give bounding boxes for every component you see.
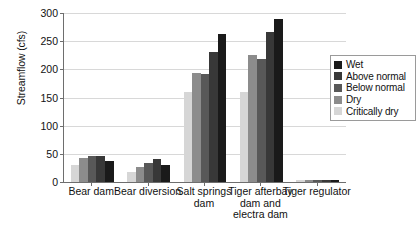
bar: [153, 159, 162, 182]
legend-item[interactable]: Dry: [334, 94, 411, 106]
y-tick-label: 300: [40, 7, 58, 19]
bar: [296, 180, 305, 182]
legend-swatch-icon: [334, 96, 342, 104]
bars-layer: [64, 13, 346, 182]
bar: [144, 163, 153, 182]
legend-swatch-icon: [334, 84, 342, 92]
legend-item[interactable]: Above normal: [334, 71, 411, 83]
y-tick-label: 50: [46, 148, 58, 160]
bar: [266, 32, 275, 182]
bar: [248, 55, 257, 182]
bar-group: [71, 13, 114, 182]
bar: [96, 156, 105, 182]
bar: [192, 73, 201, 182]
x-axis-label: Tiger regulator: [282, 186, 352, 198]
bar: [305, 180, 314, 182]
bar: [240, 92, 249, 182]
legend-swatch-icon: [334, 107, 342, 115]
bar: [127, 172, 136, 182]
legend-item[interactable]: Critically dry: [334, 105, 411, 117]
x-axis-labels: Bear damBear diversionSalt springsdamTig…: [63, 186, 345, 234]
bar: [71, 165, 80, 182]
bar: [105, 161, 114, 182]
bar: [322, 180, 331, 182]
bar: [184, 92, 193, 182]
y-tick-mark: [60, 182, 64, 183]
legend-item[interactable]: Wet: [334, 59, 411, 71]
y-axis-title: Streamflow (cfs): [15, 3, 27, 133]
bar: [88, 156, 97, 182]
legend-label: Dry: [346, 94, 361, 105]
y-tick-label: 150: [40, 92, 58, 104]
y-tick-label: 200: [40, 63, 58, 75]
bar: [79, 158, 88, 182]
bar: [209, 52, 218, 182]
bar: [218, 34, 227, 182]
bar: [136, 167, 145, 182]
legend: WetAbove normalBelow normalDryCritically…: [330, 55, 416, 121]
bar-chart: Streamflow (cfs) 050100150200250300 Bear…: [0, 0, 419, 234]
y-tick-label: 250: [40, 35, 58, 47]
bar: [201, 74, 210, 182]
legend-label: Below normal: [346, 82, 405, 93]
bar: [161, 165, 170, 182]
legend-swatch-icon: [334, 72, 342, 80]
legend-label: Above normal: [346, 71, 406, 82]
bar: [257, 59, 266, 182]
plot-area: 050100150200250300: [63, 13, 346, 183]
bar-group: [240, 13, 283, 182]
y-tick-label: 100: [40, 120, 58, 132]
x-axis-label-line: electra dam: [225, 209, 295, 221]
legend-label: Wet: [346, 59, 363, 70]
bar-group: [184, 13, 227, 182]
legend-label: Critically dry: [346, 106, 398, 117]
bar-group: [127, 13, 170, 182]
legend-swatch-icon: [334, 61, 342, 69]
legend-item[interactable]: Below normal: [334, 82, 411, 94]
x-axis-label-line: Tiger regulator: [282, 186, 352, 198]
bar: [274, 19, 283, 182]
bar: [331, 180, 340, 182]
